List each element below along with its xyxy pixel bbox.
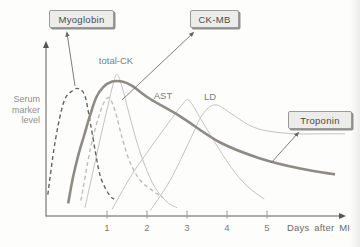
x-axis-label: Days after MI — [287, 222, 350, 233]
callout-box-troponin: Troponin — [288, 111, 352, 129]
x-tick-label-2: 2 — [144, 222, 149, 233]
callout-myoglobin-label: Myoglobin — [58, 14, 104, 25]
callout-box-myoglobin: Myoglobin — [49, 10, 114, 28]
callout-box-ck-mb: CK-MB — [190, 10, 239, 28]
curve-label-ast: AST — [154, 90, 173, 101]
y-axis-label: Serum marker level — [0, 94, 40, 126]
x-tick-label-3: 3 — [184, 222, 189, 233]
callout-arrow-troponin — [271, 133, 298, 163]
x-tick-label-4: 4 — [224, 222, 229, 233]
curve-ck-mb — [81, 98, 163, 201]
x-tick-label-5: 5 — [264, 222, 269, 233]
curve-label-total-ck: total-CK — [99, 55, 134, 66]
cardiac-markers-figure: 12345total-CKASTLD Serum marker level Da… — [0, 0, 360, 247]
callout-arrow-myoglobin — [67, 33, 75, 86]
curve-ast — [112, 100, 264, 210]
curve-label-ld: LD — [204, 91, 216, 102]
callout-ck-mb-label: CK-MB — [198, 14, 230, 25]
callout-troponin-label: Troponin — [300, 115, 340, 126]
curve-troponin — [68, 81, 335, 203]
x-tick-label-1: 1 — [104, 222, 109, 233]
